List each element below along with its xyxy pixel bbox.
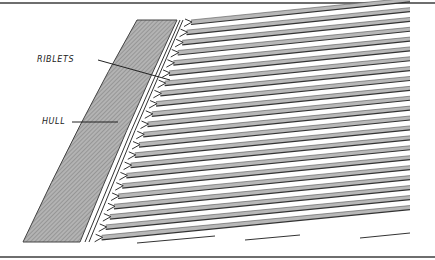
riblet-tooth: [128, 152, 136, 160]
riblet-tooth: [115, 183, 123, 191]
riblet-tooth: [132, 142, 140, 150]
riblet-tooth: [175, 39, 183, 47]
riblet-tooth: [153, 90, 161, 98]
riblet-tooth: [111, 193, 119, 201]
riblet-tooth: [99, 224, 107, 232]
riblet-tooth: [180, 29, 188, 37]
riblet-tooth: [107, 203, 115, 211]
riblet-tooth: [184, 19, 192, 27]
riblets-hull-illustration: [0, 0, 435, 260]
riblet-tooth: [162, 70, 170, 78]
riblet-tooth: [166, 60, 174, 68]
riblet-tooth: [95, 234, 103, 242]
riblets-label: RIBLETS: [37, 55, 74, 64]
riblet-tooth: [124, 162, 132, 170]
riblet-tooth: [145, 111, 153, 119]
riblet-tooth: [141, 121, 149, 129]
riblet-tooth: [103, 214, 111, 222]
riblet-tooth: [136, 131, 144, 139]
riblet-tooth: [149, 101, 157, 109]
riblet-tooth: [119, 172, 127, 180]
hull-label: HULL: [42, 117, 65, 126]
riblet-tooth: [158, 80, 166, 88]
riblet-tooth: [171, 50, 179, 58]
